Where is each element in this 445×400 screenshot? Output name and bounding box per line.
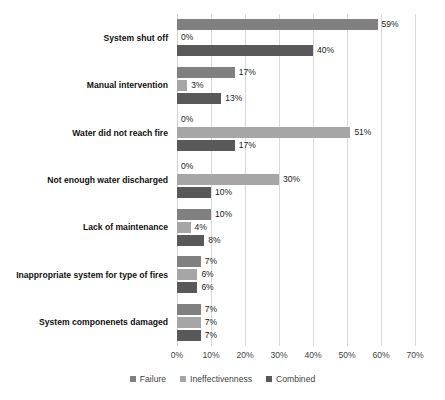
bar-row[interactable]: 7% [177,317,415,328]
bar-row[interactable]: 6% [177,282,415,293]
bar-row[interactable]: 4% [177,222,415,233]
category-label: System shut off [0,33,168,43]
bar-row[interactable]: 17% [177,67,415,78]
bar-combined[interactable] [177,330,201,341]
legend-label: Failure [140,374,166,384]
bar-row[interactable]: 51% [177,127,415,138]
bar-value-label: 13% [221,93,242,104]
bar-row[interactable]: 0% [177,161,415,172]
x-tick-label: 40% [304,350,321,360]
bar-combined[interactable] [177,282,197,293]
chart-legend: FailureIneffectivennessCombined [0,374,445,384]
bar-ineffectivenness[interactable] [177,127,350,138]
legend-swatch-icon [180,376,186,382]
bar-row[interactable]: 7% [177,330,415,341]
bar-row[interactable]: 7% [177,256,415,267]
bar-row[interactable]: 10% [177,209,415,220]
bar-value-label: 7% [201,256,217,267]
bar-group: 7%6%6% [177,251,415,298]
bar-value-label: 7% [201,304,217,315]
legend-item[interactable]: Failure [130,374,166,384]
category-label: Lack of maintenance [0,222,168,232]
bar-value-label: 3% [187,80,203,91]
category-label: System componenets damaged [0,317,168,327]
bar-row[interactable]: 30% [177,174,415,185]
bar-combined[interactable] [177,93,221,104]
bar-value-label: 8% [204,235,220,246]
bar-combined[interactable] [177,45,313,56]
bar-row[interactable]: 0% [177,32,415,43]
bar-value-label: 10% [211,187,232,198]
bar-group: 7%7%7% [177,299,415,346]
bar-row[interactable]: 7% [177,304,415,315]
bar-row[interactable]: 6% [177,269,415,280]
bar-ineffectivenness[interactable] [177,317,201,328]
bar-ineffectivenness[interactable] [177,80,187,91]
bar-group: 0%51%17% [177,109,415,156]
bar-chart: 59%0%40%17%3%13%0%51%17%0%30%10%10%4%8%7… [0,0,445,400]
category-label: Water did not reach fire [0,128,168,138]
x-tick-label: 60% [372,350,389,360]
bar-row[interactable]: 8% [177,235,415,246]
bar-value-label: 10% [211,209,232,220]
bar-combined[interactable] [177,187,211,198]
bar-failure[interactable] [177,67,235,78]
bar-value-label: 17% [235,140,256,151]
bar-group: 59%0%40% [177,14,415,61]
legend-swatch-icon [130,376,136,382]
bar-value-label: 59% [378,19,399,30]
legend-swatch-icon [266,376,272,382]
bar-row[interactable]: 17% [177,140,415,151]
x-axis-tick-labels: 0%10%20%30%40%50%60%70% [177,350,415,364]
bar-group: 0%30%10% [177,156,415,203]
bar-row[interactable]: 13% [177,93,415,104]
legend-label: Ineffectivenness [190,374,252,384]
bar-failure[interactable] [177,209,211,220]
category-label: Manual intervention [0,80,168,90]
bar-value-label: 30% [279,174,300,185]
bar-failure[interactable] [177,19,378,30]
bar-value-label: 0% [177,161,193,172]
bar-failure[interactable] [177,304,201,315]
bar-ineffectivenness[interactable] [177,222,191,233]
bar-value-label: 51% [350,127,371,138]
legend-item[interactable]: Combined [266,374,315,384]
bar-value-label: 6% [197,282,213,293]
bar-combined[interactable] [177,140,235,151]
x-tick-label: 10% [202,350,219,360]
category-label: Inappropriate system for type of fires [0,270,168,280]
bar-row[interactable]: 59% [177,19,415,30]
bar-value-label: 40% [313,45,334,56]
bar-value-label: 0% [177,32,193,43]
x-tick-label: 70% [406,350,423,360]
bar-combined[interactable] [177,235,204,246]
bar-value-label: 6% [197,269,213,280]
bar-ineffectivenness[interactable] [177,269,197,280]
bar-value-label: 4% [191,222,207,233]
bar-ineffectivenness[interactable] [177,174,279,185]
bar-row[interactable]: 0% [177,114,415,125]
bar-row[interactable]: 10% [177,187,415,198]
x-tick-label: 0% [171,350,183,360]
bar-row[interactable]: 40% [177,45,415,56]
bar-value-label: 17% [235,67,256,78]
legend-label: Combined [276,374,315,384]
plot-area: 59%0%40%17%3%13%0%51%17%0%30%10%10%4%8%7… [177,14,415,346]
legend-item[interactable]: Ineffectivenness [180,374,252,384]
gridline-70 [415,14,416,346]
x-tick-label: 30% [270,350,287,360]
category-label: Not enough water discharged [0,175,168,185]
bar-group: 17%3%13% [177,61,415,108]
bar-value-label: 0% [177,114,193,125]
bar-value-label: 7% [201,317,217,328]
bar-value-label: 7% [201,330,217,341]
x-tick-label: 20% [236,350,253,360]
bar-row[interactable]: 3% [177,80,415,91]
x-tick-label: 50% [338,350,355,360]
category-axis-labels: System shut offManual interventionWater … [0,14,172,346]
bar-failure[interactable] [177,256,201,267]
bar-group: 10%4%8% [177,204,415,251]
